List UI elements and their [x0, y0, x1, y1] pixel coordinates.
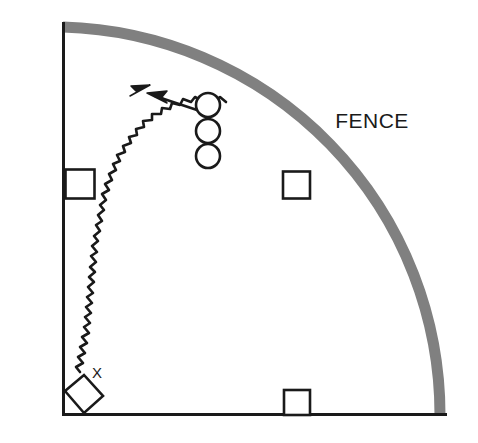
marker-x-label: X: [92, 364, 102, 381]
fence-label: FENCE: [335, 109, 409, 132]
wavy-path-arrowhead: [130, 85, 150, 96]
square-left-line: [66, 170, 95, 199]
square-bottom-line: [284, 390, 310, 415]
square-center-field: [283, 172, 310, 199]
fence-arc: [63, 27, 440, 415]
fielder-direction-arrowhead: [147, 91, 167, 103]
circle-bottom: [196, 144, 220, 168]
diagram-svg: FENCE X: [0, 0, 478, 443]
circle-middle: [196, 119, 220, 143]
field-diagram-canvas: FENCE X: [0, 0, 478, 443]
circle-top: [196, 93, 220, 117]
